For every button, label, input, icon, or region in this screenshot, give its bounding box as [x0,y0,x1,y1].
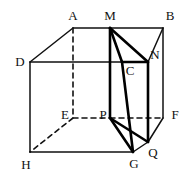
vertex-label-N: N [150,48,159,61]
vertex-label-B: B [166,9,175,22]
vertex-label-A: A [68,9,77,22]
geometry-canvas [0,0,192,176]
hidden-edge-E-H [30,118,73,152]
vertex-label-E: E [61,108,69,121]
vertex-label-G: G [129,157,138,170]
geometry-figure: AMBDNCEPFQHG [0,0,192,176]
vertex-label-F: F [171,108,178,121]
vertex-label-C: C [126,64,135,77]
cube-edges-group [30,28,163,152]
vertex-label-H: H [21,158,30,171]
prism-edges-group [110,28,148,152]
edge-A-D [30,28,73,62]
vertex-label-M: M [104,9,116,22]
vertex-label-D: D [15,55,24,68]
edge-G-Q [133,142,148,152]
vertex-label-P: P [99,108,106,121]
edge-Q-F [148,118,163,142]
vertex-label-Q: Q [148,146,157,159]
